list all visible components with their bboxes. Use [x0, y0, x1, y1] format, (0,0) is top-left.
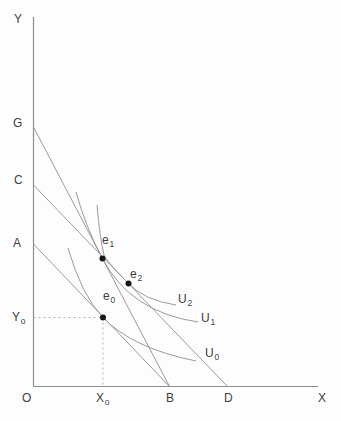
y-axis-label-C: C: [14, 174, 23, 186]
curve-label-U2-main: U: [178, 292, 187, 306]
x-axis-label-Xo: Xo: [96, 392, 110, 404]
diagram-svg: [0, 0, 341, 421]
x-axis-label-Xo-main: X: [96, 391, 104, 405]
point-label-e2: e2: [130, 268, 142, 280]
x-axis-label-D: D: [224, 392, 233, 404]
point-label-e0-sub: 0: [110, 295, 115, 305]
curve-label-U2: U2: [178, 293, 192, 305]
point-label-e0: e0: [103, 290, 115, 302]
x-axis-label-Xo-sub: o: [105, 397, 110, 407]
equilibrium-dot-e2: [126, 281, 132, 287]
y-axis-label-G: G: [13, 117, 23, 129]
y-axis-label-Yo: Yo: [12, 311, 26, 323]
equilibrium-dot-e1: [100, 256, 106, 262]
y-axis-label-Yo-sub: o: [21, 316, 26, 326]
point-label-e2-sub: 2: [137, 273, 142, 283]
point-label-e2-main: e: [130, 267, 137, 281]
curve-label-U1-sub: 1: [210, 317, 215, 327]
curve-label-U1-main: U: [201, 311, 210, 325]
y-axis-label-Yo-main: Y: [12, 310, 20, 324]
equilibrium-dot-e0: [100, 315, 106, 321]
curve-label-U1: U1: [201, 312, 215, 324]
curve-label-U0-sub: 0: [214, 352, 219, 362]
x-axis-label-B: B: [166, 392, 174, 404]
point-label-e1-main: e: [102, 233, 109, 247]
point-label-e0-main: e: [103, 289, 110, 303]
indifference-curve-U0: [68, 248, 196, 361]
point-label-e1-sub: 1: [109, 239, 114, 249]
origin-label: O: [22, 392, 32, 404]
y-axis-title: Y: [14, 13, 22, 25]
curve-label-U0-main: U: [205, 346, 214, 360]
curve-label-U0: U0: [205, 347, 219, 359]
curve-label-U2-sub: 2: [187, 298, 192, 308]
indifference-curve-figure: Y X O G C A Yo Xo B D e1 e2 e0 U2 U1 U0: [0, 0, 341, 421]
point-label-e1: e1: [102, 234, 114, 246]
x-axis-title: X: [318, 392, 326, 404]
y-axis-label-A: A: [13, 237, 21, 249]
